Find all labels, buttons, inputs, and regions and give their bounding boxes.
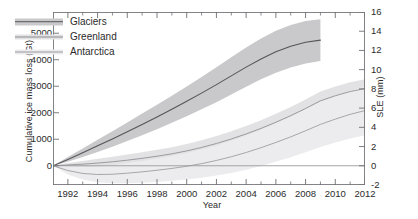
y-tick-label-right: 4: [371, 121, 397, 132]
ice-mass-loss-chart: Cumulative ice mass loss (Gt) SLE (mm) Y…: [0, 0, 418, 219]
legend-swatch-greenland: [15, 32, 63, 41]
legend-label-glaciers: Glaciers: [70, 16, 107, 27]
legend-item-glaciers: Glaciers: [15, 14, 190, 29]
legend-label-greenland: Greenland: [70, 31, 117, 42]
legend-swatch-antarctica: [15, 47, 63, 56]
y-tick-label-right: 14: [371, 25, 397, 36]
x-tick-label: 2012: [345, 188, 385, 199]
y-tick-label-right: 10: [371, 64, 397, 75]
y-tick-label-left: 2000: [12, 107, 52, 118]
legend-label-antarctica: Antarctica: [70, 46, 114, 57]
y-tick-label-left: 3000: [12, 80, 52, 91]
y-tick-label-right: 8: [371, 83, 397, 94]
legend: GlaciersGreenlandAntarctica: [15, 14, 190, 59]
y-tick-label-right: 0: [371, 160, 397, 171]
y-tick-label-left: 0: [12, 160, 52, 171]
legend-item-antarctica: Antarctica: [15, 44, 190, 59]
x-axis-ticks: 1992199419961998200020022004200620082010…: [0, 188, 418, 208]
y-tick-label-right: 12: [371, 44, 397, 55]
y-tick-label-right: 16: [371, 6, 397, 17]
y-tick-label-right: 6: [371, 102, 397, 113]
legend-swatch-glaciers: [15, 17, 63, 26]
legend-item-greenland: Greenland: [15, 29, 190, 44]
y-axis-right-ticks: -20246810121416: [371, 0, 399, 219]
y-tick-label-right: 2: [371, 141, 397, 152]
y-tick-label-left: 1000: [12, 133, 52, 144]
